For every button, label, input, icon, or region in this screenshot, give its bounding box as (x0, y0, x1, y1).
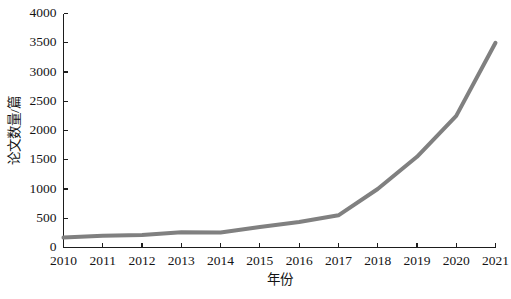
x-tick-label: 2018 (364, 253, 391, 268)
y-tick-label: 4000 (30, 5, 57, 20)
x-tick-label: 2013 (168, 253, 195, 268)
x-tick-label: 2017 (325, 253, 352, 268)
x-tick-label: 2021 (482, 253, 509, 268)
chart-canvas: 05001000150020002500300035004000 2010201… (0, 0, 511, 299)
x-tick-label: 2015 (246, 253, 273, 268)
y-tick-label: 3500 (30, 34, 57, 49)
x-tick-label: 2020 (443, 253, 470, 268)
y-tick-label: 1000 (30, 181, 57, 196)
x-tick-label: 2012 (129, 253, 156, 268)
y-axis-title: 论文数量/篇 (7, 96, 22, 165)
y-tick-label: 0 (50, 239, 57, 254)
x-tick-label: 2014 (207, 253, 234, 268)
x-tick-label: 2019 (403, 253, 430, 268)
y-tick-label: 2000 (30, 122, 57, 137)
y-tick-label: 1500 (30, 151, 57, 166)
y-tick-label: 500 (36, 210, 57, 225)
y-tick-label: 3000 (30, 64, 57, 79)
line-chart: 05001000150020002500300035004000 2010201… (0, 0, 511, 299)
x-axis-title: 年份 (267, 272, 294, 287)
x-tick-label: 2016 (286, 253, 313, 268)
x-tick-label: 2010 (50, 253, 77, 268)
y-tick-label: 2500 (30, 93, 57, 108)
x-tick-label: 2011 (90, 253, 117, 268)
